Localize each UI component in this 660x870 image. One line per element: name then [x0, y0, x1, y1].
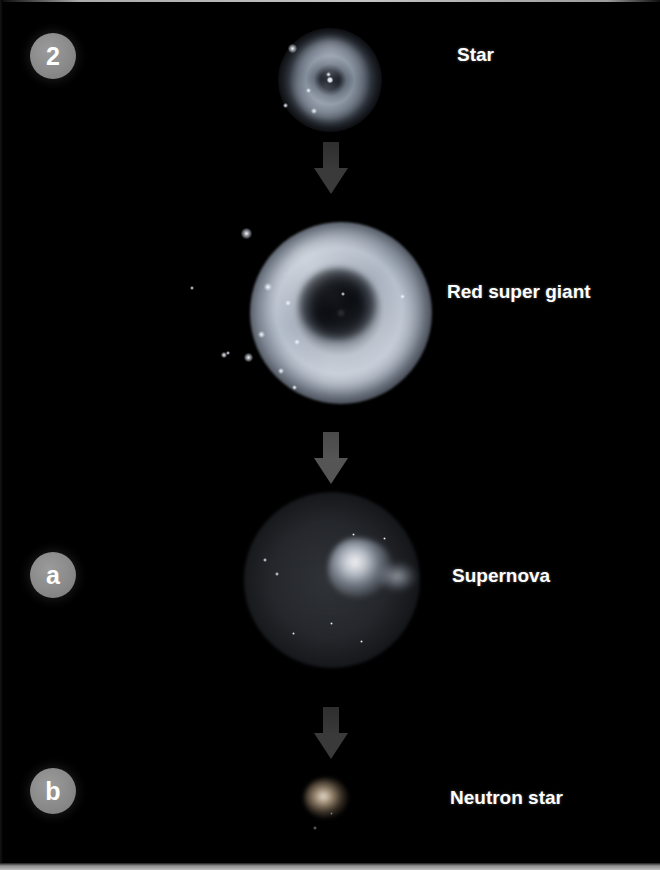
field-star: [244, 353, 253, 362]
badge-step-b: b: [30, 768, 76, 814]
arrow-shaft: [323, 707, 339, 735]
field-star: [241, 228, 252, 239]
field-star: [341, 292, 345, 296]
field-star: [352, 533, 355, 536]
field-star: [360, 640, 363, 643]
stage-label-star: Star: [457, 44, 494, 66]
field-star: [292, 385, 297, 390]
field-star: [383, 537, 386, 540]
field-star: [288, 44, 297, 53]
field-star: [330, 622, 333, 625]
star-swirl: [290, 38, 369, 121]
page-edge-bottom: [0, 863, 660, 870]
arrow-red-super-giant-to-supernova: [314, 432, 348, 484]
field-star: [278, 368, 284, 374]
field-star: [311, 108, 317, 114]
field-star: [264, 283, 272, 291]
giant-inner-cavity: [299, 268, 375, 341]
field-star: [275, 572, 279, 576]
field-star: [283, 103, 288, 108]
supernova-secondary-knot: [378, 562, 417, 590]
field-star: [258, 331, 265, 338]
field-star: [306, 88, 311, 93]
arrow-shaft: [323, 432, 339, 460]
badge-step-a: a: [30, 552, 76, 598]
arrow-head: [314, 168, 348, 194]
red-super-giant-image: [250, 222, 432, 404]
field-star: [292, 632, 295, 635]
field-star: [226, 351, 230, 355]
arrow-head: [314, 458, 348, 484]
page-edge-left: [0, 0, 3, 870]
stellar-evolution-diagram: 2 Star Red super giant a: [0, 0, 660, 870]
badge-step-2: 2: [30, 33, 76, 79]
field-star: [313, 826, 317, 830]
arrow-head: [314, 733, 348, 759]
field-star: [263, 558, 267, 562]
arrow-star-to-red-super-giant: [314, 142, 348, 194]
page-edge-top: [0, 0, 660, 2]
arrow-shaft: [323, 142, 339, 170]
neutron-star-image: [304, 778, 348, 818]
field-star: [285, 300, 291, 306]
stage-label-red-super-giant: Red super giant: [447, 281, 591, 303]
stage-label-neutron-star: Neutron star: [450, 787, 563, 809]
field-star: [330, 812, 333, 815]
stage-label-supernova: Supernova: [452, 565, 550, 587]
supernova-image: [244, 492, 420, 668]
arrow-supernova-to-neutron-star: [314, 707, 348, 759]
field-star: [326, 72, 331, 77]
field-star: [400, 294, 405, 299]
field-star: [190, 286, 194, 290]
field-star: [294, 339, 300, 345]
